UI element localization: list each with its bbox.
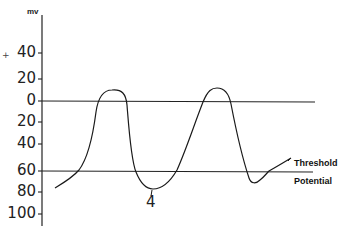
- y-tick-label: 100: [2, 206, 36, 221]
- potential-label: Potential: [294, 176, 332, 186]
- y-tick-label: 40: [2, 45, 36, 60]
- y-axis-unit-label: mv: [27, 7, 39, 16]
- y-tick-label: 60: [2, 163, 36, 178]
- y-tick-label: 20: [2, 71, 36, 86]
- y-tick-label: 0: [2, 93, 36, 108]
- membrane-potential-diagram: mv + 40 20 0 20 40 60 80 100 Threshold P…: [0, 0, 342, 233]
- threshold-label: Threshold: [294, 158, 338, 168]
- zero-line: [42, 101, 315, 102]
- y-tick-label: 80: [2, 184, 36, 199]
- marker-label-4: 4: [146, 193, 156, 211]
- y-tick-label: 40: [2, 136, 36, 151]
- potential-curve: [55, 88, 291, 189]
- diagram-canvas: [0, 0, 342, 233]
- threshold-line: [42, 171, 313, 172]
- y-tick-label: 20: [2, 114, 36, 129]
